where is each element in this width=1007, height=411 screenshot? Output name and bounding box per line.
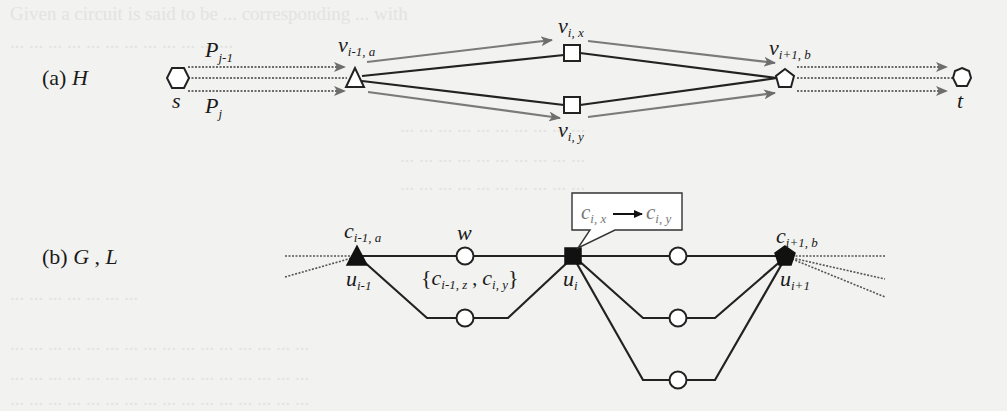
set-label: {ci-1, z , ci, y} [421,265,519,292]
node-circle-bottom-right [670,372,687,389]
node-v-i-1-a-triangle-icon [346,68,364,87]
node-circle-upper-right [670,248,687,265]
node-v-i-1-a-label: vi-1, a [338,32,376,59]
svg-text:... ... ... ... ... ... ... ..: ... ... ... ... ... ... ... ... ... ... … [10,363,309,384]
node-v-i+1-b-pentagon-icon [776,69,794,87]
node-t-label: t [957,88,964,113]
svg-text:... ... ... ... ... ... ... ..: ... ... ... ... ... ... ... ... ... ... … [10,31,233,52]
node-u-i+1-label: ui+1 [780,266,810,293]
panel-b: (b) G , L ci-1, a [42,193,885,389]
path-dotted-right [797,67,953,91]
svg-text:... ... ... ... ... ... ... ..: ... ... ... ... ... ... ... ... ... ... [400,145,585,166]
node-u-i-label: ui [563,266,578,293]
node-s-hexagon-icon [167,68,189,88]
path-label-pj: Pj [204,93,222,121]
diagram-canvas: Given a circuit is said to be ... corres… [0,0,1007,411]
node-c-i+1-b-label: ci+1, b [776,223,818,250]
path-dotted-left [188,67,347,91]
svg-text:... ... ... ... ... ... ... ..: ... ... ... ... ... ... ... ... ... ... [400,173,585,194]
svg-text:... ... ... ... ... ... ... ..: ... ... ... ... ... ... ... ... ... ... … [10,333,309,354]
node-v-i-x-label: vi, x [558,13,584,40]
figure: Given a circuit is said to be ... corres… [0,0,1007,411]
node-c-i-1-a-label: ci-1, a [344,218,382,245]
dotted-lines-left [285,256,352,277]
node-u-i-1-label: ui-1 [346,266,371,293]
svg-text:Given a circuit is said to be: Given a circuit is said to be ... corres… [10,3,408,24]
node-circle-lower-left [457,310,474,327]
panel-a-label: (a) H [42,65,89,90]
node-w-circle-icon [457,248,474,265]
node-t-heptagon-icon [953,68,971,86]
node-s-label: s [172,88,181,113]
node-v-i-y-square-icon [564,97,580,113]
background-text-ghost: Given a circuit is said to be ... corres… [10,3,585,409]
svg-text:... ... ... ... ... ... ...: ... ... ... ... ... ... ... [10,283,138,304]
node-w-label: w [457,220,472,245]
node-u-i-filled-square-icon [565,248,581,264]
svg-text:... ... ... ... ... ... ... ..: ... ... ... ... ... ... ... ... ... ... … [10,388,309,409]
node-v-i-x-square-icon [564,45,580,61]
panel-b-label: (b) G , L [42,244,118,269]
node-v-i+1-b-label: vi+1, b [769,35,811,62]
node-circle-middle-right [670,310,687,327]
callout-c-i-x-to-c-i-y: ci, x ci, y [572,193,682,248]
